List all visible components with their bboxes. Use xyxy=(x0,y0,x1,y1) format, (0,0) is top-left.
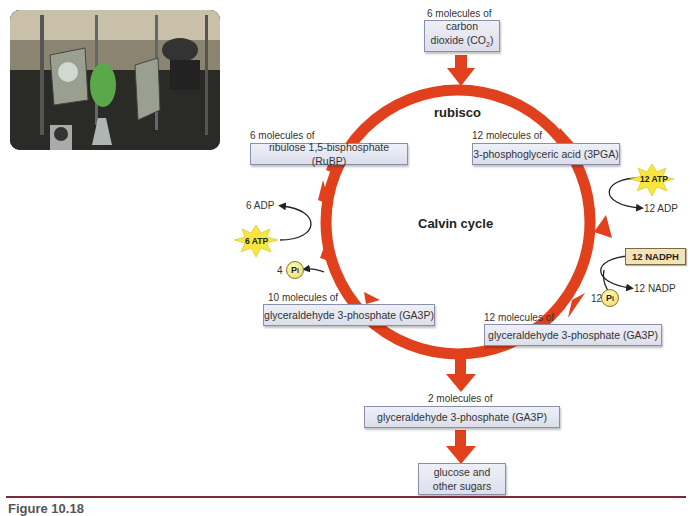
nadp12-label: 12 NADP xyxy=(634,283,676,294)
co2-name-line2: dioxide (CO2) xyxy=(431,33,494,52)
adp12-label: 12 ADP xyxy=(644,203,678,214)
cycle-title: Calvin cycle xyxy=(418,216,493,231)
co2-name-line1: carbon xyxy=(446,19,478,33)
atp12-label: 12 ATP xyxy=(640,174,668,184)
co2-count-label: 6 molecules of xyxy=(427,8,491,19)
ga3p12-count-label: 12 molecules of xyxy=(484,312,554,323)
sugars-line2: other sugars xyxy=(433,479,491,493)
atp6-label: 6 ATP xyxy=(245,236,268,246)
sugars-box: glucose and other sugars xyxy=(418,463,506,495)
ga3p10-name: glyceraldehyde 3-phosphate (GA3P) xyxy=(264,308,434,322)
rubp-box: ribulose 1,5-bisphosphate (RuBP) xyxy=(250,143,408,165)
phosphate-icon-12: Pi xyxy=(601,289,619,307)
figure-caption: Figure 10.18 xyxy=(8,501,84,516)
ga3p10-box: glyceraldehyde 3-phosphate (GA3P) xyxy=(263,304,435,326)
adp6-label: 6 ADP xyxy=(246,200,274,211)
caption-divider xyxy=(6,496,686,498)
pga-name: 3-phosphoglyceric acid (3PGA) xyxy=(473,147,618,161)
ga3p10-count-label: 10 molecules of xyxy=(268,292,338,303)
sugars-line1: glucose and xyxy=(434,465,491,479)
pga-box: 3-phosphoglyceric acid (3PGA) xyxy=(472,143,620,165)
ga3p12-name: glyceraldehyde 3-phosphate (GA3P) xyxy=(488,328,658,342)
ga3p2-name: glyceraldehyde 3-phosphate (GA3P) xyxy=(377,410,547,424)
pga-count-label: 12 molecules of xyxy=(472,130,542,141)
ga3p2-count-label: 2 molecules of xyxy=(428,393,492,404)
pi4-count: 4 xyxy=(277,265,283,276)
ga3p2-box: glyceraldehyde 3-phosphate (GA3P) xyxy=(364,406,560,428)
rubp-name: ribulose 1,5-bisphosphate (RuBP) xyxy=(251,140,407,168)
ga3p12-box: glyceraldehyde 3-phosphate (GA3P) xyxy=(484,324,662,346)
enzyme-label: rubisco xyxy=(434,105,481,120)
phosphate-icon-4: Pi xyxy=(286,261,304,279)
nadph12-box: 12 NADPH xyxy=(625,248,686,265)
co2-box: carbon dioxide (CO2) xyxy=(424,20,500,52)
